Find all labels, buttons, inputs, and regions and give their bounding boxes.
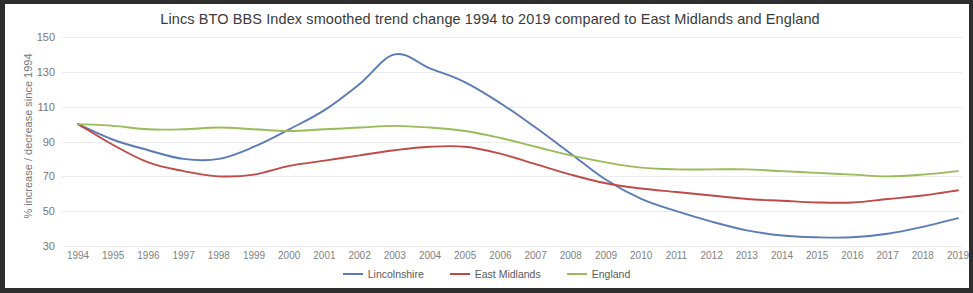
y-axis-tick-label: 110 bbox=[37, 101, 55, 113]
y-axis-tick-label: 130 bbox=[37, 66, 55, 78]
x-axis-tick-label: 1997 bbox=[172, 250, 194, 261]
x-axis-tick-label: 2004 bbox=[419, 250, 441, 261]
x-axis-tick-label: 2000 bbox=[278, 250, 300, 261]
x-axis-tick-label: 1994 bbox=[67, 250, 89, 261]
series-line-england bbox=[78, 124, 958, 176]
series-lines bbox=[62, 37, 962, 246]
legend-item-england[interactable]: England bbox=[567, 268, 631, 280]
x-axis-tick-label: 1999 bbox=[243, 250, 265, 261]
legend-item-east-midlands[interactable]: East Midlands bbox=[450, 268, 541, 280]
y-axis-tick-label: 50 bbox=[43, 205, 55, 217]
frame-border-left bbox=[0, 0, 5, 293]
gridline bbox=[62, 246, 962, 247]
legend-item-lincolnshire[interactable]: Lincolnshire bbox=[343, 268, 424, 280]
y-axis-tick-label: 70 bbox=[43, 170, 55, 182]
x-axis-tick-label: 2006 bbox=[489, 250, 511, 261]
series-line-lincolnshire bbox=[78, 54, 958, 238]
frame-border-bottom bbox=[0, 288, 973, 293]
x-axis-tick-label: 2002 bbox=[348, 250, 370, 261]
x-axis-tick-label: 2007 bbox=[524, 250, 546, 261]
x-axis-tick-label: 2013 bbox=[736, 250, 758, 261]
y-axis-tick-label: 90 bbox=[43, 136, 55, 148]
x-axis-tick-label: 2005 bbox=[454, 250, 476, 261]
frame-border-right bbox=[969, 0, 973, 293]
x-axis-tick-label: 2015 bbox=[806, 250, 828, 261]
x-axis-tick-label: 1998 bbox=[208, 250, 230, 261]
x-axis-tick-label: 2010 bbox=[630, 250, 652, 261]
y-axis-tick-label: 30 bbox=[43, 240, 55, 252]
x-axis-tick-label: 2012 bbox=[700, 250, 722, 261]
x-axis-tick-label: 2018 bbox=[912, 250, 934, 261]
legend-swatch-icon bbox=[567, 273, 587, 275]
x-axis-tick-label: 2009 bbox=[595, 250, 617, 261]
chart-title: Lincs BTO BBS Index smoothed trend chang… bbox=[60, 11, 920, 27]
chart-screenshot: Lincs BTO BBS Index smoothed trend chang… bbox=[0, 0, 973, 293]
x-axis-tick-label: 2011 bbox=[666, 250, 688, 261]
series-line-east-midlands bbox=[78, 124, 958, 203]
x-axis-tick-label: 2003 bbox=[384, 250, 406, 261]
x-axis-tick-label: 2014 bbox=[771, 250, 793, 261]
legend-label: East Midlands bbox=[475, 268, 541, 280]
x-axis-tick-label: 2001 bbox=[313, 250, 335, 261]
legend-swatch-icon bbox=[343, 273, 363, 275]
legend-label: England bbox=[592, 268, 631, 280]
x-axis-tick-label: 2008 bbox=[560, 250, 582, 261]
x-axis-tick-label: 2017 bbox=[876, 250, 898, 261]
x-axis-tick-label: 1996 bbox=[137, 250, 159, 261]
x-axis-tick-label: 2019 bbox=[947, 250, 969, 261]
x-axis-tick-label: 1995 bbox=[102, 250, 124, 261]
legend-swatch-icon bbox=[450, 273, 470, 275]
y-axis-tick-label: 150 bbox=[37, 31, 55, 43]
legend-label: Lincolnshire bbox=[368, 268, 424, 280]
plot-area: 15013011090705030 1994199519961997199819… bbox=[62, 37, 962, 246]
frame-border-top bbox=[0, 0, 973, 4]
x-axis-tick-label: 2016 bbox=[841, 250, 863, 261]
chart-legend: LincolnshireEast MidlandsEngland bbox=[0, 268, 973, 280]
y-axis-title: % increase / decrease since 1994 bbox=[22, 36, 34, 236]
